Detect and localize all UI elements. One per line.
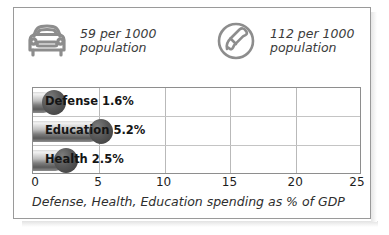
xtick-25: 25 <box>349 175 364 189</box>
rowline-1 <box>33 116 360 117</box>
xtick-15: 15 <box>222 175 237 189</box>
x-axis: 0 5 10 15 20 25 <box>32 175 361 191</box>
stats-row: 59 per 1000 population 112 per 1000 popu… <box>14 8 370 74</box>
bar-label-health: Health 2.5% <box>45 152 124 166</box>
xtick-0: 0 <box>31 175 39 189</box>
infographic-panel-root: 59 per 1000 population 112 per 1000 popu… <box>0 0 389 235</box>
xtick-10: 10 <box>156 175 171 189</box>
stat-telephones: 112 per 1000 population <box>214 20 354 62</box>
stat-cars: 59 per 1000 population <box>24 20 156 62</box>
gridline-15 <box>230 88 231 173</box>
xtick-5: 5 <box>94 175 102 189</box>
gridline-10 <box>165 88 166 173</box>
plot-area: Defense 1.6% Education 5.2% Health 2.5% <box>32 87 361 174</box>
xtick-20: 20 <box>288 175 303 189</box>
bordered-panel: 59 per 1000 population 112 per 1000 popu… <box>13 7 371 219</box>
chart-caption: Defense, Health, Education spending as %… <box>32 194 345 209</box>
gridline-20 <box>296 88 297 173</box>
telephone-icon <box>214 20 260 62</box>
rowline-2 <box>33 145 360 146</box>
stat-cars-label: 59 per 1000 population <box>80 27 156 55</box>
bar-label-education: Education 5.2% <box>45 123 145 137</box>
bar-chart: Defense 1.6% Education 5.2% Health 2.5% … <box>14 78 372 220</box>
stat-telephones-label: 112 per 1000 population <box>270 27 354 55</box>
car-icon <box>24 20 70 62</box>
panel-drop-shadow <box>22 221 378 227</box>
bar-label-defense: Defense 1.6% <box>45 94 134 108</box>
